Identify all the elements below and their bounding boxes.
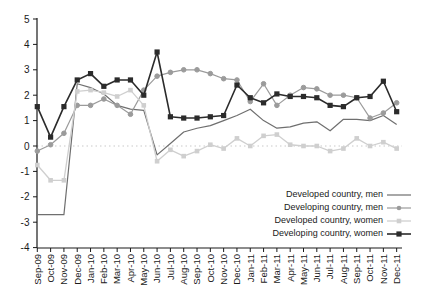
- x-axis-tick-label: Jun-10: [151, 254, 162, 283]
- x-axis-tick-label: Jul-11: [324, 254, 335, 279]
- series-marker-developed-country-women: [354, 136, 359, 141]
- series-marker-developing-country-women: [367, 94, 372, 99]
- series-marker-developing-country-women: [394, 109, 399, 114]
- series-marker-developing-country-women: [141, 93, 146, 98]
- series-marker-developing-country-men: [235, 78, 240, 83]
- series-marker-developed-country-women: [115, 94, 120, 99]
- x-axis-tick-label: May-11: [298, 254, 309, 285]
- y-axis-tick-label: -2: [21, 191, 30, 202]
- series-marker-developing-country-women: [234, 82, 239, 87]
- legend-item-developing-country-men: Developing country, men: [284, 201, 412, 214]
- series-marker-developed-country-women: [141, 103, 146, 108]
- series-marker-developing-country-women: [194, 115, 199, 120]
- series-marker-developing-country-women: [154, 49, 159, 54]
- legend-sample-glyph: [386, 190, 412, 200]
- series-marker-developing-country-men: [328, 93, 333, 98]
- x-axis-tick-label: Mar-10: [111, 254, 122, 284]
- series-marker-developed-country-women: [341, 146, 346, 151]
- series-marker-developed-country-women: [168, 148, 173, 153]
- series-marker-developing-country-men: [48, 142, 53, 147]
- legend-sample-glyph: [386, 229, 412, 239]
- series-marker-developing-country-women: [75, 77, 80, 82]
- series-marker-developing-country-women: [168, 114, 173, 119]
- x-axis-tick-label: Sep-10: [191, 254, 202, 285]
- x-axis-tick-label: Mar-11: [271, 254, 282, 283]
- legend-sample-line: [386, 216, 412, 226]
- series-marker-developed-country-women: [328, 149, 333, 154]
- series-marker-developed-country-women: [102, 90, 107, 95]
- series-marker-developing-country-men: [181, 68, 186, 73]
- legend-item-developing-country-women: Developing country, women: [273, 227, 412, 240]
- x-axis-tick-label: Feb-11: [258, 254, 269, 283]
- y-axis-tick-label: 4: [24, 39, 30, 50]
- legend-item-developed-country-men: Developed country, men: [286, 188, 412, 201]
- series-marker-developing-country-women: [208, 114, 213, 119]
- series-marker-developing-country-women: [101, 84, 106, 89]
- legend-label: Developing country, women: [273, 227, 383, 240]
- y-axis-tick-label: -3: [21, 217, 30, 228]
- x-axis-tick-label: Oct-09: [45, 254, 56, 283]
- series-marker-developing-country-women: [341, 104, 346, 109]
- series-line-developing-country-men: [37, 70, 396, 151]
- x-axis-tick-label: Oct-11: [364, 254, 375, 282]
- series-marker-developed-country-women: [181, 154, 186, 159]
- series-marker-developed-country-women: [315, 144, 320, 149]
- series-marker-developing-country-men: [208, 71, 213, 76]
- series-marker-developing-country-women: [261, 100, 266, 105]
- legend-sample-marker: [397, 218, 402, 223]
- y-axis-tick-label: 2: [24, 90, 30, 101]
- x-axis-tick-label: Sep-11: [351, 254, 362, 284]
- series-marker-developed-country-women: [381, 140, 386, 145]
- series-marker-developed-country-women: [48, 178, 53, 183]
- series-marker-developing-country-men: [195, 68, 200, 73]
- series-marker-developing-country-women: [248, 95, 253, 100]
- series-marker-developing-country-women: [61, 104, 66, 109]
- y-axis-tick-label: -1: [21, 166, 30, 177]
- x-axis-tick-label: Nov-09: [58, 254, 69, 285]
- y-axis-tick-label: -4: [21, 242, 30, 253]
- x-axis-tick-label: Jun-11: [311, 254, 322, 282]
- series-marker-developed-country-women: [301, 144, 306, 149]
- series-marker-developing-country-men: [168, 70, 173, 75]
- y-axis-tick-label: 5: [24, 14, 30, 25]
- series-marker-developed-country-women: [261, 134, 266, 139]
- series-marker-developing-country-women: [35, 104, 40, 109]
- series-marker-developing-country-men: [315, 87, 320, 92]
- series-marker-developing-country-men: [62, 131, 67, 136]
- series-marker-developing-country-men: [261, 81, 266, 86]
- series-marker-developing-country-women: [288, 94, 293, 99]
- chart-canvas: 543210-1-2-3-4Sep-09Oct-09Nov-09Dec-09Ja…: [0, 0, 423, 307]
- x-axis-tick-label: Oct-10: [205, 254, 216, 283]
- x-axis-tick-label: Aug-11: [338, 254, 349, 284]
- legend-label: Developing country, men: [284, 201, 383, 214]
- x-axis-tick-label: Nov-10: [218, 254, 229, 285]
- series-marker-developed-country-women: [195, 149, 200, 154]
- x-axis-tick-label: Jul-10: [165, 254, 176, 280]
- series-marker-developed-country-women: [288, 142, 293, 147]
- series-marker-developing-country-women: [221, 113, 226, 118]
- y-axis-tick-label: 3: [24, 64, 30, 75]
- y-axis-tick-label: 0: [24, 141, 30, 152]
- legend: Developed country, men Developing countr…: [273, 188, 412, 240]
- series-marker-developing-country-men: [102, 97, 107, 102]
- x-axis-tick-label: May-10: [138, 254, 149, 286]
- series-marker-developing-country-men: [381, 111, 386, 116]
- series-marker-developing-country-men: [221, 76, 226, 81]
- series-marker-developing-country-women: [274, 91, 279, 96]
- y-axis-tick-label: 1: [24, 115, 30, 126]
- series-marker-developed-country-women: [275, 132, 280, 137]
- series-marker-developing-country-men: [155, 74, 160, 79]
- series-marker-developed-country-women: [394, 146, 399, 151]
- legend-item-developed-country-women: Developed country, women: [275, 214, 412, 227]
- line-chart-figure: 543210-1-2-3-4Sep-09Oct-09Nov-09Dec-09Ja…: [0, 0, 423, 307]
- series-marker-developing-country-women: [48, 135, 53, 140]
- legend-sample-marker: [397, 205, 402, 210]
- series-marker-developing-country-men: [275, 103, 280, 108]
- series-marker-developing-country-men: [115, 103, 120, 108]
- series-marker-developing-country-men: [35, 149, 40, 154]
- legend-sample-marker: [396, 231, 401, 236]
- series-marker-developing-country-women: [354, 95, 359, 100]
- legend-sample-line: [386, 203, 412, 213]
- series-marker-developing-country-men: [88, 103, 93, 108]
- legend-sample-glyph: [386, 203, 412, 213]
